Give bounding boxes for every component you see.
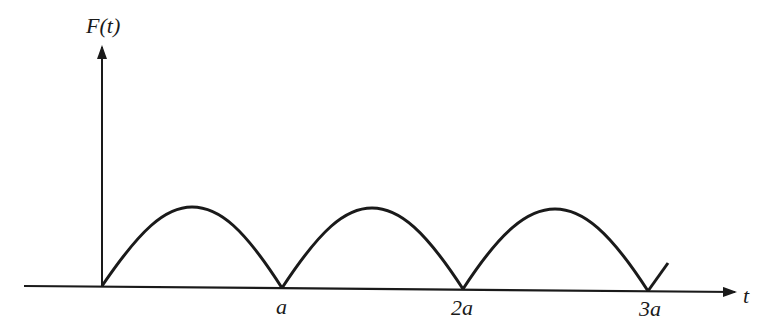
curve-arch-1	[102, 207, 282, 288]
y-axis-label: F(t)	[85, 13, 120, 38]
curve-arch-2	[282, 208, 463, 289]
tick-label-3a: 3a	[638, 296, 661, 321]
x-axis	[24, 286, 735, 292]
rectified-sine-diagram: F(t) t a 2a 3a	[0, 0, 773, 333]
tick-label-2a: 2a	[451, 295, 473, 320]
curve-start-arch-4	[648, 263, 668, 291]
x-axis-label: t	[743, 283, 750, 308]
curve-arch-3	[463, 209, 648, 291]
tick-label-a: a	[276, 294, 287, 319]
